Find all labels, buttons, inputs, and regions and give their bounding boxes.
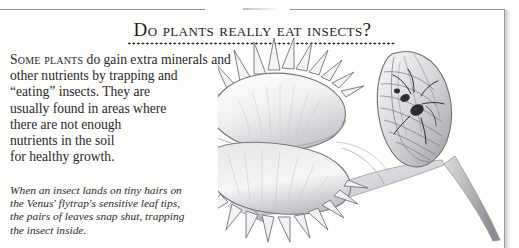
closed-trap-with-insect [377,52,451,167]
caption-line-4: the insect inside. [10,224,220,237]
caption-line-3: the pairs of leaves snap shut, trapping [10,210,220,223]
caption-line-1: When an insect lands on tiny hairs on [10,184,220,197]
body-line-1-rest: do gain extra minerals and [87,52,231,67]
book-page-scan: Do plants really eat insects? Some plant… [0,0,519,248]
lead-smallcaps: Some plants [10,52,83,67]
top-rule-gap-gradient [243,8,279,10]
venus-flytrap-illustration [218,36,508,248]
caption-line-2: the Venus' flytrap's sensitive leaf tips… [10,197,220,210]
figure-caption: When an insect lands on tiny hairs on th… [10,184,220,237]
